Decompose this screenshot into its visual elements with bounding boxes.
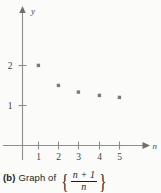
- x-tick-label-2: 2: [56, 152, 61, 162]
- x-tick-label-3: 3: [76, 152, 81, 162]
- data-point: [77, 90, 80, 93]
- figure-caption: (b) Graph of { n + 1 n }: [3, 172, 161, 193]
- y-axis-arrowhead: [19, 6, 25, 13]
- y-tick-label-2: 2: [8, 61, 13, 71]
- data-point: [98, 94, 101, 97]
- x-axis-arrowhead: [143, 142, 151, 149]
- right-brace: }: [99, 171, 106, 191]
- x-axis-label: n: [153, 141, 158, 151]
- caption-text: Graph of: [18, 172, 56, 183]
- x-tick-label-1: 1: [36, 152, 41, 162]
- y-axis-label: y: [30, 6, 35, 16]
- x-tick-label-5: 5: [117, 152, 122, 162]
- caption-tag: (b): [3, 172, 15, 183]
- figure-panel: y n 2 1 1 2 3 4 5 (b) Graph of { n + 1: [0, 0, 161, 193]
- left-brace: {: [61, 171, 68, 191]
- fraction-denominator: n: [81, 182, 86, 192]
- data-point: [37, 64, 40, 67]
- x-tick-label-4: 4: [97, 152, 102, 162]
- sequence-scatter-plot: y n 2 1 1 2 3 4 5: [0, 0, 161, 168]
- sequence-expression: { n + 1 n }: [60, 170, 107, 193]
- fraction: n + 1 n: [70, 170, 98, 193]
- y-tick-label-1: 1: [8, 101, 13, 111]
- fraction-numerator: n + 1: [72, 170, 96, 180]
- data-point: [118, 96, 121, 99]
- data-point: [57, 84, 60, 87]
